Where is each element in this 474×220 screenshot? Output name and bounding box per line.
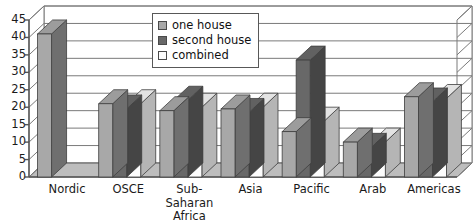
legend-item-label: one house	[172, 20, 232, 32]
y-axis-tick-label: 20	[4, 101, 26, 113]
legend-item: one house	[158, 18, 251, 33]
y-axis-tick-label: 45	[4, 14, 26, 26]
y-axis-tick-label: 15	[4, 119, 26, 131]
legend-item-label: combined	[172, 50, 229, 62]
legend-swatch-icon	[158, 51, 167, 60]
y-axis-tick-label: 10	[4, 136, 26, 148]
y-axis-tick-label: 30	[4, 67, 26, 79]
x-axis-tick-label: Americas	[389, 183, 474, 197]
legend-item: second house	[158, 33, 251, 48]
legend-swatch-icon	[158, 36, 167, 45]
y-axis-tick-label: 35	[4, 49, 26, 61]
legend-item: combined	[158, 48, 251, 63]
y-axis-tick-label: 0	[4, 171, 26, 183]
y-axis-tick-label: 25	[4, 84, 26, 96]
legend-swatch-icon	[158, 21, 167, 30]
y-axis-tick-label: 40	[4, 32, 26, 44]
chart-legend: one housesecond housecombined	[152, 13, 259, 68]
y-axis-tick-label: 5	[4, 154, 26, 166]
bar-chart: 454035302520151050 NordicOSCESub- Sahara…	[0, 0, 474, 220]
legend-item-label: second house	[172, 35, 251, 47]
